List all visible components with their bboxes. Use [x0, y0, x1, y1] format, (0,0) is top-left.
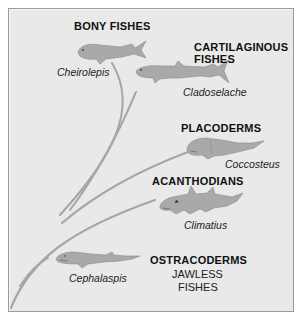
- label-acanthodians: ACANTHODIANS: [152, 175, 244, 187]
- genus-cephalaspis: Cephalaspis: [69, 272, 127, 284]
- climatius-fish-icon: [160, 186, 243, 214]
- label-jawless-line2: FISHES: [178, 281, 218, 293]
- cheirolepis-fish-icon: [78, 41, 146, 64]
- genus-cladoselache: Cladoselache: [183, 86, 247, 98]
- label-jawless-line1: JAWLESS: [172, 268, 223, 280]
- genus-cheirolepis: Cheirolepis: [57, 66, 110, 78]
- genus-coccosteus: Coccosteus: [225, 158, 280, 170]
- cephalaspis-fish-icon: [56, 252, 140, 268]
- genus-climatius: Climatius: [184, 219, 227, 231]
- branch-bony: [60, 63, 123, 215]
- label-placoderms: PLACODERMS: [181, 122, 261, 134]
- label-bony-fishes: BONY FISHES: [74, 20, 151, 32]
- label-cartilaginous-line2: FISHES: [194, 53, 235, 65]
- label-ostracoderms: OSTRACODERMS: [150, 254, 247, 266]
- label-cartilaginous-line1: CARTILAGINOUS: [194, 41, 288, 53]
- coccosteus-fish-icon: [187, 138, 264, 159]
